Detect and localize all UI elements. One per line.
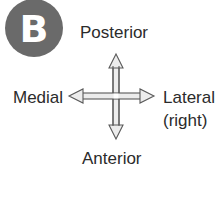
horizontal-arrow-icon — [69, 89, 154, 103]
four-way-arrow-icon — [0, 0, 219, 201]
arrow-crossing — [114, 94, 119, 99]
